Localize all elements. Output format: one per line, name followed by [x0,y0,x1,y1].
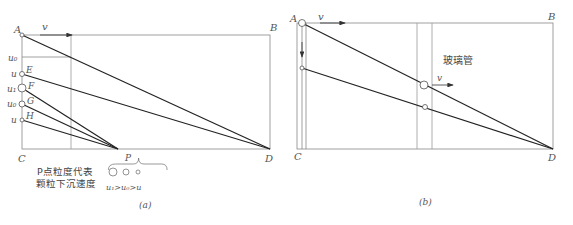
label-u-h: u [11,115,17,125]
trajectory-b-lower [302,68,553,149]
label-p: P [124,153,132,163]
note-line-2: 颗粒下沉速度 [36,178,96,189]
trajectory-h-p [22,120,118,149]
figure-b: A B C D v v 玻璃管 (b) [289,11,556,207]
particle-f [18,84,26,92]
particle-g [19,101,25,107]
particle-large [109,168,117,176]
label-b: B [269,22,277,33]
particle-b-tube-large [420,81,428,89]
label-g: G [27,96,34,106]
figure-a: A B C D v E F G H u₀ u u₁ u₀ u P u₁>u₀>u… [7,21,277,210]
particle-b-a [299,20,306,27]
label-b-b: B [547,11,555,22]
trajectory-g-p [22,104,118,149]
particle-small [136,170,140,174]
label-e: E [25,65,33,75]
caption-b: (b) [419,197,432,207]
particle-b-tube-small [423,105,428,110]
label-u0-g: u₀ [7,99,17,109]
particle-h [20,118,24,122]
label-f: F [27,81,35,91]
label-a: A [13,24,21,35]
label-u0: u₀ [8,53,18,63]
label-b-d: D [547,152,556,163]
velocity-inequality: u₁>u₀>u [106,183,141,192]
glass-tube-label: 玻璃管 [443,54,473,66]
particle-group-brace [108,158,167,170]
particle-medium [123,169,129,175]
particle-e [20,72,25,77]
particle-b-lower [300,66,304,70]
label-c: C [18,153,26,164]
label-velocity-a: v [42,21,48,32]
settling-diagram: A B C D v E F G H u₀ u u₁ u₀ u P u₁>u₀>u… [0,0,573,225]
label-velocity-b-tube: v [437,73,442,83]
trajectory-a-d [22,35,270,149]
label-u1: u₁ [7,84,16,94]
label-d: D [264,153,273,164]
label-b-a: A [289,13,297,24]
label-velocity-b-top: v [318,11,324,22]
caption-a: (a) [139,200,152,210]
label-h: H [25,111,34,121]
label-u-e: u [11,69,17,79]
note-line-1: P点粒度代表 [37,166,93,177]
label-b-c: C [294,151,302,162]
trajectory-f-p [22,88,118,149]
